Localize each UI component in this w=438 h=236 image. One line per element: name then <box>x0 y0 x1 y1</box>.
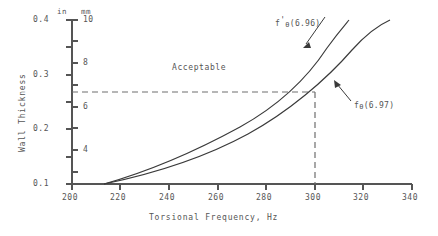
y-axis-unit-left: in <box>57 7 67 16</box>
mm-tick-label-6: 6 <box>83 102 88 111</box>
x-tick-label-200: 200 <box>62 193 78 202</box>
x-tick-label-260: 260 <box>208 193 224 202</box>
mm-tick-label-4: 4 <box>83 145 88 154</box>
leader-line-lower-curve <box>337 84 351 101</box>
x-tick-label-280: 280 <box>256 193 272 202</box>
mm-tick-label-8: 8 <box>83 58 88 67</box>
guide-lines-group <box>72 92 315 184</box>
y-axis-ticks <box>66 20 72 184</box>
mm-tick-label-10: 10 <box>83 15 94 24</box>
x-tick-label-220: 220 <box>110 193 126 202</box>
y-axis-mm-ticks <box>72 20 78 172</box>
curve-label-f-theta-prime: f'θ(6.96) <box>275 16 320 29</box>
y-tick-label-0-1: 0.1 <box>33 179 49 188</box>
curve-label-value-upper: (6.96) <box>290 19 321 28</box>
x-tick-label-340: 340 <box>402 193 418 202</box>
y-tick-label-0-3: 0.3 <box>33 70 49 79</box>
x-axis-title: Torsional Frequency, Hz <box>149 213 278 222</box>
curve-label-value-lower: (6.97) <box>364 101 395 110</box>
x-tick-label-320: 320 <box>353 193 369 202</box>
y-tick-label-0-4: 0.4 <box>33 15 49 24</box>
acceptable-region-label: Acceptable <box>172 63 226 72</box>
y-axis-title: Wall Thickness <box>18 73 27 152</box>
curve-f-theta-prime-6-96 <box>104 20 349 184</box>
y-tick-label-0-2: 0.2 <box>33 124 49 133</box>
curve-f-theta-6-97 <box>104 20 390 184</box>
x-tick-label-300: 300 <box>305 193 321 202</box>
x-axis-ticks <box>72 184 412 190</box>
curve-label-f-theta: fθ(6.97) <box>354 101 394 111</box>
x-tick-label-240: 240 <box>159 193 175 202</box>
